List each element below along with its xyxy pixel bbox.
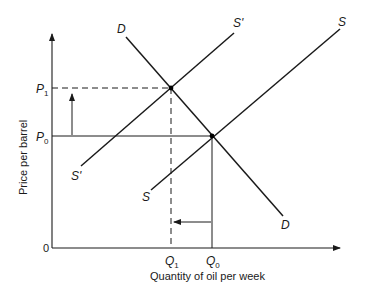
supply-shifted-label-bottom: S' — [71, 169, 82, 183]
supply-shifted-label-top: S' — [233, 16, 244, 30]
demand-label-top: D — [117, 22, 126, 36]
y-axis-title: Price per barrel — [17, 120, 29, 195]
demand-label-bottom: D — [281, 218, 290, 232]
supply-original-label-top: S — [338, 15, 346, 29]
q1-label: Q1 — [165, 254, 179, 270]
origin-label: 0 — [43, 242, 49, 254]
p0-label: P0 — [36, 130, 49, 146]
q0-label: Q0 — [206, 254, 220, 270]
x-axis-title: Quantity of oil per week — [150, 270, 265, 282]
supply-demand-diagram: D D S' S' S S P1 P0 Q1 Q0 0 Quantity of … — [0, 0, 365, 294]
supply-original-label-bottom: S — [142, 190, 150, 204]
equilibrium-point-original — [210, 134, 215, 139]
supply-original-curve — [151, 29, 340, 190]
p1-label: P1 — [36, 82, 49, 98]
supply-shifted-curve — [81, 33, 234, 166]
equilibrium-point-new — [169, 86, 174, 91]
